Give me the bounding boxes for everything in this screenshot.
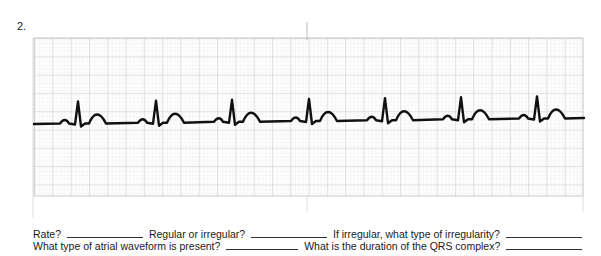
irregularity-type-answer-blank[interactable] (506, 228, 582, 238)
irregularity-type-question: If irregular, what type of irregularity? (333, 228, 500, 240)
ecg-grid (34, 38, 583, 196)
atrial-waveform-question: What type of atrial waveform is present? (33, 240, 220, 252)
atrial-waveform-answer-blank[interactable] (226, 240, 298, 250)
ecg-strip (0, 0, 601, 220)
qrs-duration-answer-blank[interactable] (506, 240, 582, 250)
rate-question: Rate? (33, 228, 61, 240)
regularity-question: Regular or irregular? (149, 228, 245, 240)
rate-answer-blank[interactable] (67, 228, 143, 238)
regularity-answer-blank[interactable] (251, 228, 327, 238)
qrs-duration-question: What is the duration of the QRS complex? (304, 240, 500, 252)
